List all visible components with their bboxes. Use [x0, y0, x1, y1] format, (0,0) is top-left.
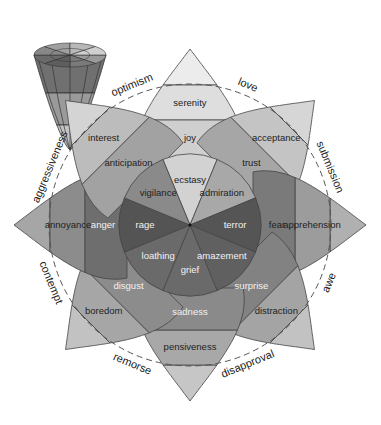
emotion-label-interest: interest: [88, 132, 120, 143]
emotion-label-terror: terror: [224, 219, 247, 230]
emotion-label-anticipation: anticipation: [104, 157, 152, 168]
emotion-label-disgust: disgust: [113, 280, 143, 291]
emotion-label-pensiveness: pensiveness: [164, 341, 217, 352]
petal-tip: [163, 49, 217, 85]
emotion-label-rage: rage: [135, 219, 154, 230]
emotion-label-trust: trust: [242, 157, 261, 168]
emotion-label-anger: anger: [91, 219, 115, 230]
emotion-label-admiration: admiration: [200, 187, 244, 198]
emotion-label-loathing: loathing: [142, 250, 175, 261]
dyad-label-disapproval: disapproval: [219, 347, 276, 380]
emotion-label-joy: joy: [183, 132, 196, 143]
wheel-center-dot: [188, 223, 191, 226]
emotion-label-vigilance: vigilance: [140, 187, 177, 198]
dyad-label-submission: submission: [314, 139, 346, 194]
petal-tip: [163, 365, 217, 401]
emotion-label-boredom: boredom: [85, 305, 123, 316]
dyad-label-love: love: [237, 75, 260, 94]
emotion-label-apprehension: apprehension: [283, 219, 341, 230]
emotion-label-ecstasy: ecstasy: [174, 174, 206, 185]
emotion-label-sadness: sadness: [172, 306, 208, 317]
emotion-label-surprise: surprise: [235, 280, 269, 291]
emotion-label-distraction: distraction: [255, 305, 298, 316]
emotion-label-annoyance: annoyance: [45, 219, 91, 230]
emotion-label-grief: grief: [181, 264, 200, 275]
emotion-wheel-diagram: ecstasyjoyserenityadmirationtrustaccepta…: [0, 0, 381, 425]
emotion-label-acceptance: acceptance: [252, 132, 301, 143]
dyad-label-optimism: optimism: [109, 71, 154, 99]
emotion-label-serenity: serenity: [173, 97, 207, 108]
emotion-label-amazement: amazement: [197, 250, 247, 261]
